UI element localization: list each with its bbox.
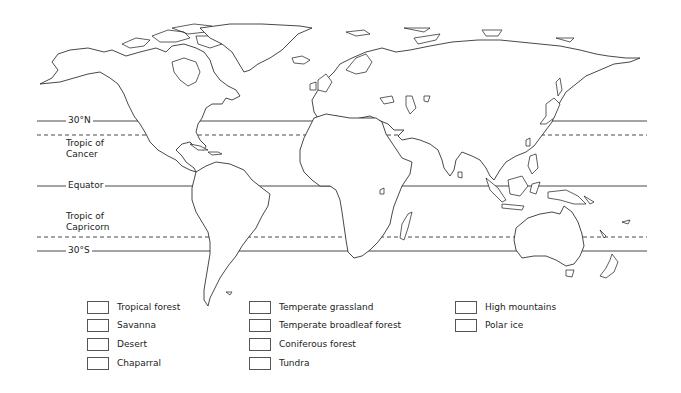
greenland (200, 24, 312, 72)
label-tropic-of-capricorn-line2: Capricorn (66, 222, 109, 233)
legend-item-tundra: Tundra (249, 356, 309, 370)
legend-label: Temperate broadleaf forest (279, 320, 401, 330)
new-zealand (600, 254, 618, 278)
world-map (0, 0, 681, 393)
java (502, 204, 524, 210)
legend-label: Tundra (279, 358, 309, 368)
swatch-box (87, 301, 109, 314)
madagascar (400, 212, 412, 240)
new-guinea (548, 190, 586, 204)
legend-item-high-mountains: High mountains (455, 300, 556, 314)
swatch-box (249, 357, 271, 370)
sulawesi (530, 182, 540, 194)
swatch-box (87, 357, 109, 370)
label-tropic-of-cancer-line1: Tropic of (66, 138, 104, 149)
swatch-box (249, 338, 271, 351)
borneo (508, 176, 528, 196)
label-equator: Equator (66, 180, 105, 191)
south-america (192, 162, 270, 306)
swatch-box (87, 319, 109, 332)
swatch-box (455, 301, 477, 314)
legend-item-temperate-broadleaf-forest: Temperate broadleaf forest (249, 318, 401, 332)
iceland (292, 56, 310, 64)
falkland-islands (226, 292, 232, 295)
legend-item-desert: Desert (87, 337, 147, 351)
australia (514, 206, 584, 266)
legend-item-tropical-forest: Tropical forest (87, 300, 180, 314)
legend-item-savanna: Savanna (87, 318, 156, 332)
swatch-box (87, 338, 109, 351)
philippines (528, 154, 538, 174)
legend-label: Chaparral (117, 358, 161, 368)
label-tropic-of-cancer-line2: Cancer (66, 149, 98, 160)
swatch-box (249, 301, 271, 314)
legend-label: Coniferous forest (279, 339, 356, 349)
sumatra (486, 178, 506, 202)
swatch-box (249, 319, 271, 332)
legend-label: Temperate grassland (279, 302, 373, 312)
sri-lanka (458, 172, 462, 178)
svalbard (346, 30, 370, 36)
legend-label: Polar ice (485, 320, 523, 330)
legend-label: Savanna (117, 320, 156, 330)
label-tropic-of-capricorn-line1: Tropic of (66, 211, 104, 222)
label-30s: 30°S (66, 245, 92, 256)
legend-item-chaparral: Chaparral (87, 356, 161, 370)
fiji (622, 220, 630, 224)
swatch-box (455, 319, 477, 332)
label-30n: 30°N (66, 115, 93, 126)
legend-item-temperate-grassland: Temperate grassland (249, 300, 373, 314)
legend-label: Tropical forest (117, 302, 180, 312)
legend-label: High mountains (485, 302, 556, 312)
legend-item-coniferous-forest: Coniferous forest (249, 337, 356, 351)
legend-item-polar-ice: Polar ice (455, 318, 523, 332)
legend-label: Desert (117, 339, 147, 349)
solomon-islands (584, 196, 594, 204)
tasmania (566, 270, 574, 277)
novaya-zemlya (404, 28, 440, 44)
